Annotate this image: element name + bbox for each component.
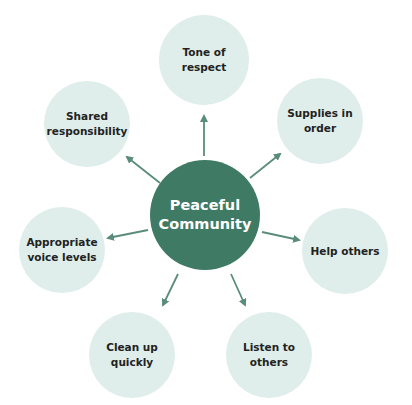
concept-map: Peaceful Community Tone of respect Suppl… (0, 0, 412, 405)
node-tone-of-respect: Tone of respect (159, 15, 249, 105)
arrow-to-listen-to-others (231, 274, 245, 305)
node-label: Listen to others (243, 340, 295, 370)
node-label: Help others (311, 244, 380, 259)
node-supplies-in-order: Supplies in order (277, 78, 363, 164)
node-listen-to-others: Listen to others (226, 312, 312, 398)
node-shared-responsibility: Shared responsibility (44, 81, 130, 167)
arrow-to-clean-up-quickly (163, 274, 178, 305)
node-label: Appropriate voice levels (26, 235, 97, 265)
node-label: Shared responsibility (47, 109, 128, 139)
arrow-to-supplies-in-order (250, 154, 280, 178)
node-clean-up-quickly: Clean up quickly (89, 312, 175, 398)
center-node-peaceful-community: Peaceful Community (150, 160, 260, 270)
arrow-to-help-others (262, 232, 299, 240)
arrow-to-shared-responsibility (127, 157, 160, 183)
node-appropriate-voice-levels: Appropriate voice levels (19, 207, 105, 293)
node-label: Tone of respect (182, 45, 226, 75)
node-help-others: Help others (302, 208, 388, 294)
center-label: Peaceful Community (159, 196, 252, 234)
node-label: Clean up quickly (106, 340, 158, 370)
arrow-to-appropriate-voice-levels (108, 230, 148, 238)
node-label: Supplies in order (287, 106, 352, 136)
